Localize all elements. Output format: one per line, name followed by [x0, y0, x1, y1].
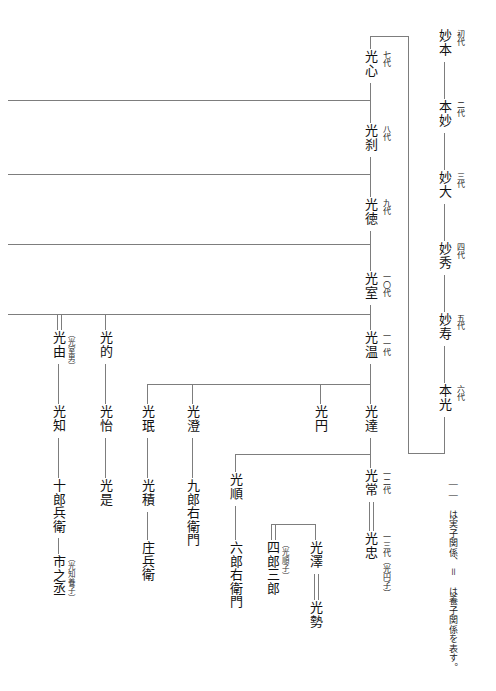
gen-myodai: 三代 [455, 172, 463, 188]
edge-kojun-rokurouemon [235, 506, 236, 544]
edge-koon-koen [320, 384, 321, 404]
gen-myoju: 五代 [455, 314, 463, 330]
gen-kochu: 一三代（光円子） [381, 533, 389, 597]
node-kocho: 光澄 [186, 404, 200, 433]
edge-bracket-up-to-koshin [408, 36, 409, 454]
gen-koshin: 七代 [381, 51, 389, 67]
edge-kocho-kurouemon [192, 438, 193, 478]
node-koseki: 光積 [141, 478, 155, 507]
node-koen: 光円 [314, 404, 328, 433]
edge-kochi-jurobee [58, 438, 59, 478]
sibling-bar-kotatsu-children [235, 454, 370, 455]
node-koteki: 光的 [99, 330, 113, 359]
node-koi: 光怡 [99, 404, 113, 433]
edge-koteki-koi [105, 364, 106, 404]
edge-koon-kobin [147, 384, 148, 404]
edge-koi-koze [105, 438, 106, 478]
edge-honmyo-myodai [444, 133, 445, 170]
node-shirosaburo: 四郎三郎 [266, 540, 280, 596]
node-kotatsu: 光達 [364, 404, 378, 433]
edge-myoshu-myoju [444, 275, 445, 312]
node-koyu: 光由 [52, 330, 66, 359]
node-kojun: 光順 [229, 472, 243, 501]
edge-koon-kocho [192, 384, 193, 404]
edge-bracket-top-to-koshin [370, 36, 409, 37]
node-kotaku: 光澤 [309, 540, 323, 569]
node-myodai: 妙大 [438, 170, 452, 199]
node-kotoku: 光徳 [364, 197, 378, 226]
sibling-bar-kojun-shirosaburo [272, 524, 315, 525]
edge-myodai-myoshu [444, 204, 445, 241]
node-kosei: 光勢 [309, 600, 323, 629]
node-myohon: 妙本 [438, 28, 452, 57]
node-jurobee: 十郎兵衛 [52, 478, 66, 534]
edge-kobin-koseki [147, 438, 148, 478]
edge-myohon-honmyo [444, 62, 445, 99]
gen-kotoku: 九代 [381, 199, 389, 215]
note-shirosaburo: （光順子） [281, 540, 289, 580]
node-ichinojo: 市之丞 [52, 554, 66, 597]
gen-honmyo: 二代 [455, 101, 463, 117]
sibling-bar-gen8 [8, 100, 370, 101]
node-myoshu: 妙秀 [438, 241, 452, 270]
sibling-bar-gen9 [8, 174, 370, 175]
node-shobee: 庄兵衛 [141, 540, 155, 583]
gen-myohon: 初代 [455, 30, 463, 46]
edge-myoju-honko [444, 346, 445, 383]
edge-honko-bracket-down [444, 417, 445, 454]
node-rokurouemon: 六郎右衛門 [229, 540, 243, 610]
node-kobin: 光珉 [141, 404, 155, 433]
node-honko: 本光 [438, 383, 452, 412]
node-koshitsu: 光室 [364, 271, 378, 300]
gen-kojo: 一二代 [381, 470, 389, 494]
gen-koshitsu: 一〇代 [381, 273, 389, 297]
note-koyu: （光室男） [67, 330, 75, 370]
edge-kosetsu-kotoku [370, 157, 371, 197]
gen-honko: 六代 [455, 385, 463, 401]
node-koze: 光是 [99, 478, 113, 507]
edge-koyu-kochi [58, 364, 59, 404]
node-kojo: 光常 [364, 468, 378, 497]
node-koshin: 光心 [364, 49, 378, 78]
node-honmyo: 本妙 [438, 99, 452, 128]
node-kosetsu: 光刹 [364, 123, 378, 152]
gen-koon: 一一代 [381, 332, 389, 356]
edge-kotatsu-kojun [235, 454, 236, 474]
node-koon: 光温 [364, 330, 378, 359]
node-kochi: 光知 [52, 404, 66, 433]
sibling-bar-koon-children [147, 384, 370, 385]
node-kochu: 光忠 [364, 531, 378, 560]
edge-koon-kotatsu [370, 364, 371, 404]
edge-kotoku-koshitsu [370, 231, 371, 271]
node-kurouemon: 九郎右衛門 [186, 478, 200, 548]
node-myoju: 妙寿 [438, 312, 452, 341]
gen-kosetsu: 八代 [381, 125, 389, 141]
sibling-bar-gen11 [8, 314, 370, 315]
edge-honko-bracket-base [408, 453, 445, 454]
legend-text: ―― は実子関係、＝ は養子関係を表す。 [448, 478, 458, 672]
sibling-bar-gen10 [8, 244, 370, 245]
genealogy-chart: 妙本 初代 本妙 二代 妙大 三代 妙秀 四代 妙寿 五代 本光 六代 光心 七… [0, 0, 496, 691]
edge-koshin-kosetsu [370, 83, 371, 123]
note-ichinojo: （光知養子） [67, 554, 75, 602]
gen-myoshu: 四代 [455, 243, 463, 259]
